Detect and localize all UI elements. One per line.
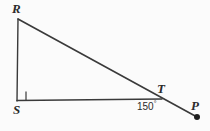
point-dot-P [194, 114, 200, 120]
geometry-figure: R S T P 150° [0, 0, 210, 131]
right-angle-marker-icon [18, 92, 26, 101]
angle-measure-label-T: 150° [137, 100, 157, 112]
vertex-label-P: P [191, 99, 199, 112]
vertex-label-S: S [13, 103, 20, 116]
vertex-label-T: T [157, 82, 165, 95]
vertex-label-R: R [12, 2, 21, 15]
segment-RS [17, 19, 18, 101]
angle-value-text: 150 [137, 101, 154, 112]
geometry-canvas [0, 0, 210, 131]
degree-symbol-icon: ° [154, 100, 157, 107]
segment-RP [18, 19, 197, 117]
